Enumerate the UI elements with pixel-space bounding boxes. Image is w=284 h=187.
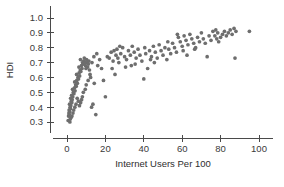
data-point <box>233 56 237 60</box>
data-point <box>95 52 99 56</box>
y-tick-label: 0.6 <box>30 72 43 83</box>
data-point <box>113 73 117 77</box>
data-point <box>157 43 161 47</box>
data-point <box>248 30 252 34</box>
data-point <box>203 41 207 45</box>
scatter-plot-figure: 0.30.40.50.60.70.80.91.0020406080100Inte… <box>0 0 284 187</box>
data-point <box>181 49 185 53</box>
data-point <box>119 52 123 56</box>
data-point <box>81 90 85 94</box>
data-point <box>92 55 96 59</box>
data-points-layer <box>66 27 251 124</box>
data-point <box>92 82 96 86</box>
data-point <box>143 46 147 50</box>
data-point <box>117 61 121 65</box>
data-point <box>185 53 189 57</box>
data-point <box>73 89 77 93</box>
data-point <box>178 40 182 44</box>
x-tick-label: 20 <box>100 143 111 154</box>
data-point <box>102 79 106 83</box>
x-tick-label: 60 <box>177 143 188 154</box>
data-point <box>217 40 221 44</box>
data-point <box>169 52 173 56</box>
data-point <box>148 49 152 53</box>
data-point <box>125 58 129 62</box>
data-point <box>198 40 202 44</box>
data-point <box>76 82 80 86</box>
data-point <box>182 34 186 38</box>
data-point <box>98 58 102 62</box>
data-point <box>205 55 209 59</box>
data-point <box>144 52 148 56</box>
y-tick-label: 0.5 <box>30 87 43 98</box>
data-point <box>171 41 175 45</box>
data-point <box>163 46 167 50</box>
data-point <box>79 58 83 62</box>
data-point <box>234 30 238 34</box>
data-point <box>175 50 179 54</box>
y-tick-label: 1.0 <box>30 12 43 23</box>
data-point <box>146 67 150 71</box>
x-axis-title: Internet Users Per 100 <box>115 158 211 169</box>
data-point <box>116 56 120 60</box>
data-point <box>89 76 93 80</box>
data-point <box>192 41 196 45</box>
y-tick-label: 0.9 <box>30 27 43 38</box>
data-point <box>88 68 92 72</box>
data-point <box>161 53 165 57</box>
x-tick-label: 100 <box>251 143 267 154</box>
data-point <box>136 47 140 51</box>
data-point <box>133 62 137 66</box>
data-point <box>129 64 133 68</box>
data-point <box>130 44 134 48</box>
data-point <box>75 96 79 100</box>
data-point <box>111 59 115 63</box>
data-point <box>129 53 133 57</box>
data-point <box>138 53 142 57</box>
data-point <box>140 59 144 63</box>
y-axis-title: HDI <box>4 62 15 78</box>
data-point <box>207 34 211 38</box>
data-point <box>173 46 177 50</box>
data-point <box>90 61 94 65</box>
chart-canvas: 0.30.40.50.60.70.80.91.0020406080100Inte… <box>0 0 284 187</box>
data-point <box>91 102 95 106</box>
y-tick-label: 0.8 <box>30 42 43 53</box>
data-point <box>107 56 111 60</box>
data-point <box>149 58 153 62</box>
data-point <box>124 65 128 69</box>
data-point <box>166 40 170 44</box>
data-point <box>186 43 190 47</box>
x-tick-label: 80 <box>215 143 226 154</box>
data-point <box>96 64 100 68</box>
data-point <box>94 113 98 117</box>
data-point <box>86 79 90 83</box>
data-point <box>184 38 188 42</box>
data-point <box>100 67 104 71</box>
x-tick-label: 0 <box>64 143 69 154</box>
data-point <box>159 49 163 53</box>
data-point <box>112 49 116 53</box>
data-point <box>78 104 82 108</box>
data-point <box>104 95 108 99</box>
data-point <box>110 67 114 71</box>
data-point <box>223 30 227 34</box>
data-point <box>118 44 122 48</box>
data-point <box>188 32 192 36</box>
data-point <box>216 31 220 35</box>
y-tick-label: 0.7 <box>30 57 43 68</box>
x-tick-label: 40 <box>139 143 150 154</box>
y-tick-label: 0.3 <box>30 116 43 127</box>
data-point <box>153 50 157 54</box>
data-point <box>196 35 200 39</box>
data-point <box>180 44 184 48</box>
data-point <box>80 67 84 71</box>
data-point <box>132 50 136 54</box>
data-point <box>84 83 88 87</box>
data-point <box>134 56 138 60</box>
data-point <box>193 47 197 51</box>
data-point <box>153 61 157 65</box>
y-tick-label: 0.4 <box>30 102 43 113</box>
data-point <box>200 31 204 35</box>
data-point <box>68 120 72 124</box>
